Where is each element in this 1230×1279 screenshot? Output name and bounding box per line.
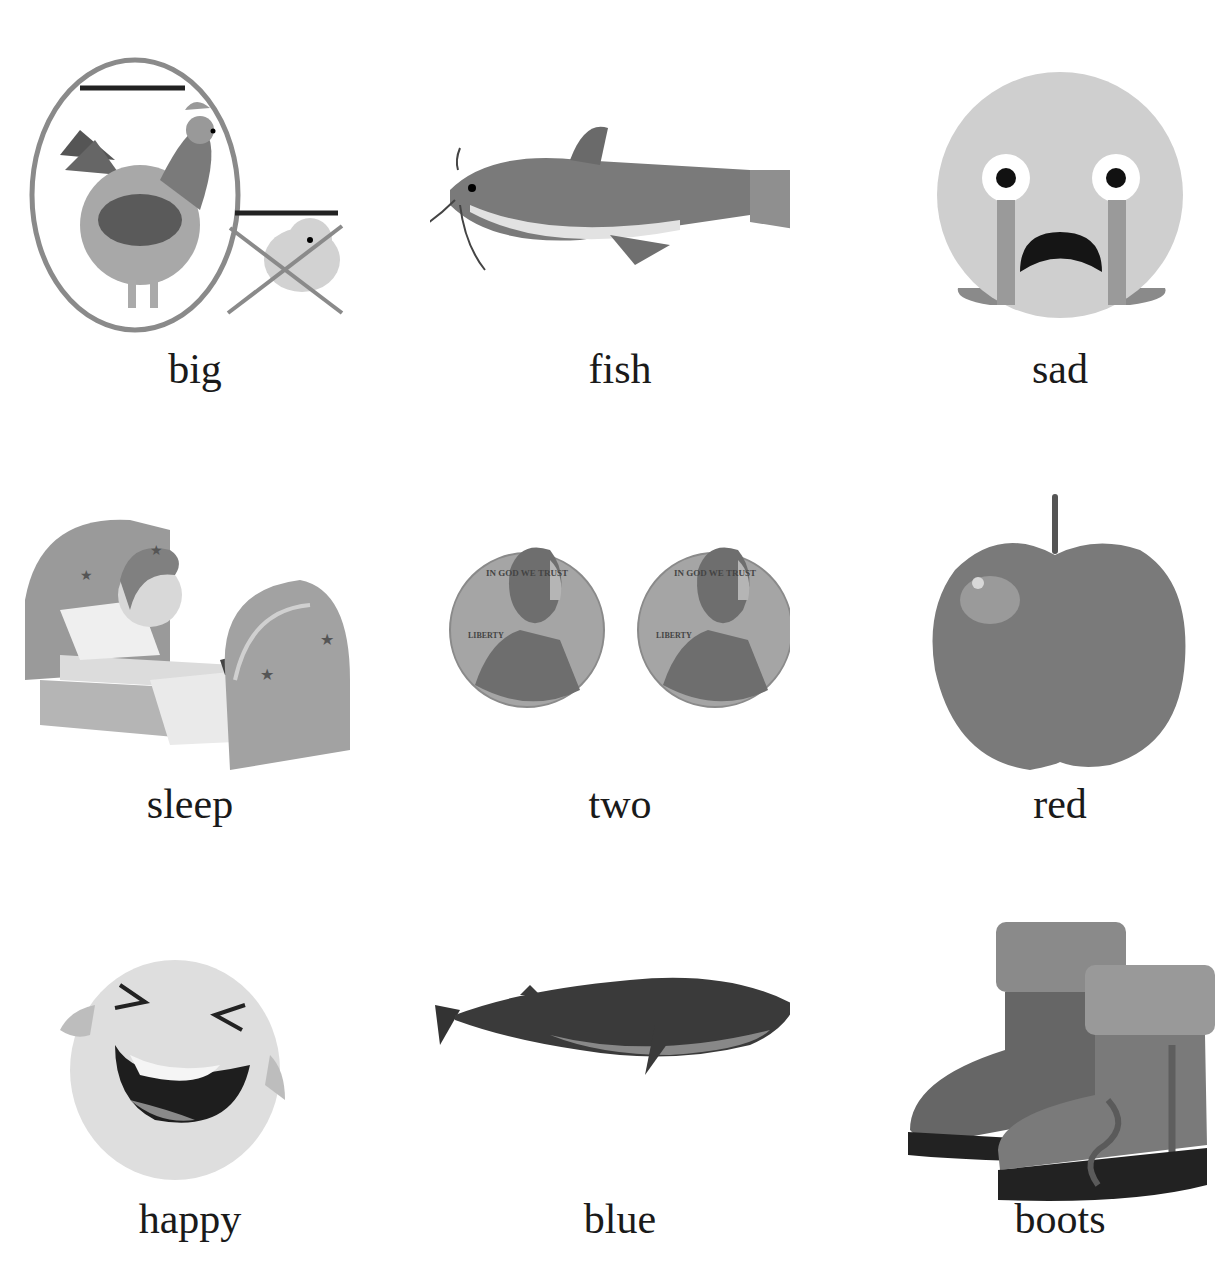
- svg-text:LIBERTY: LIBERTY: [468, 631, 504, 640]
- two-pennies-icon: IN GOD WE TRUST LIBERTY IN GOD WE TRUST …: [430, 480, 790, 820]
- word-label: two: [430, 780, 810, 828]
- cell-happy: happy: [20, 950, 380, 1279]
- svg-text:IN GOD WE TRUST: IN GOD WE TRUST: [674, 568, 756, 578]
- cell-two: IN GOD WE TRUST LIBERTY IN GOD WE TRUST …: [430, 480, 790, 880]
- cell-red: red: [880, 480, 1230, 880]
- word-label: blue: [430, 1195, 810, 1243]
- word-label: boots: [880, 1195, 1230, 1243]
- word-label: red: [880, 780, 1230, 828]
- word-label: sad: [880, 345, 1230, 393]
- catfish-icon: [430, 0, 790, 340]
- svg-text:★: ★: [260, 666, 274, 683]
- crying-face-icon: [880, 0, 1230, 340]
- svg-text:IN GOD WE TRUST: IN GOD WE TRUST: [486, 568, 568, 578]
- rooster-vs-chick-icon: [20, 0, 380, 340]
- cell-big: big: [20, 0, 380, 400]
- word-label: happy: [20, 1195, 360, 1243]
- word-label: sleep: [20, 780, 360, 828]
- pair-of-boots-icon: [880, 900, 1230, 1240]
- apple-icon: [880, 480, 1230, 820]
- cell-sad: sad: [880, 0, 1230, 400]
- svg-text:★: ★: [320, 631, 334, 648]
- word-label: big: [20, 345, 370, 393]
- cell-boots: boots: [880, 900, 1230, 1279]
- svg-text:LIBERTY: LIBERTY: [656, 631, 692, 640]
- cell-sleep: ★ ★ ★ ★ sleep: [20, 480, 380, 880]
- cell-fish: fish: [430, 0, 790, 400]
- penny-icon: IN GOD WE TRUST LIBERTY: [638, 548, 790, 708]
- cell-blue: blue: [430, 950, 790, 1279]
- word-label: fish: [430, 345, 810, 393]
- child-sleeping-in-bed-icon: ★ ★ ★ ★: [20, 480, 380, 820]
- penny-icon: IN GOD WE TRUST LIBERTY: [450, 548, 604, 708]
- svg-text:★: ★: [80, 568, 93, 583]
- svg-text:★: ★: [150, 543, 163, 558]
